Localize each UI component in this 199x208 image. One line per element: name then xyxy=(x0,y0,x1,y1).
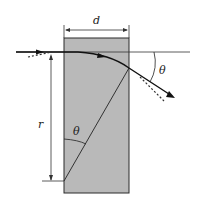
label-r: r xyxy=(38,118,44,131)
arrowhead-icon xyxy=(36,50,44,55)
refraction-diagram: d r θ θ xyxy=(0,0,199,208)
arrowhead-icon xyxy=(166,91,175,98)
arrowhead-icon xyxy=(49,175,53,181)
label-d: d xyxy=(93,14,100,27)
arrowhead-icon xyxy=(123,28,128,32)
label-theta-outer: θ xyxy=(159,64,166,77)
angle-arc-outer xyxy=(150,52,155,82)
label-theta-inner: θ xyxy=(73,125,80,138)
arrowhead-icon xyxy=(49,54,53,60)
arrowhead-icon xyxy=(65,28,70,32)
